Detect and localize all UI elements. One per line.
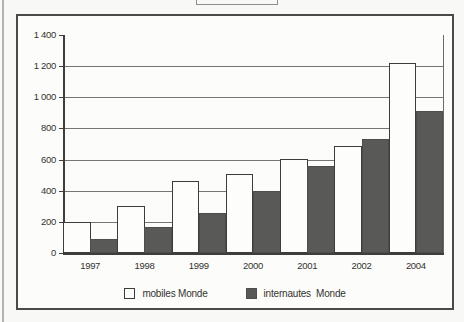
cropped-title-box bbox=[196, 0, 278, 5]
legend-label-internautes: internautes Monde bbox=[264, 288, 346, 299]
bar-internautes-2001 bbox=[307, 166, 335, 253]
x-axis-label-1999: 1999 bbox=[172, 260, 226, 271]
y-axis-label-200: 200 bbox=[20, 217, 56, 227]
y-axis-tick-1400 bbox=[59, 35, 63, 36]
x-axis-label-1998: 1998 bbox=[117, 260, 171, 271]
x-axis-label-2000: 2000 bbox=[226, 260, 280, 271]
legend-swatch-mobiles bbox=[124, 288, 135, 299]
bar-internautes-1999 bbox=[199, 213, 227, 253]
x-axis-line bbox=[63, 253, 444, 255]
y-axis-label-400: 400 bbox=[20, 186, 56, 196]
y-axis-label-600: 600 bbox=[20, 155, 56, 165]
y-axis-tick-1200 bbox=[59, 66, 63, 67]
y-axis-tick-1000 bbox=[59, 97, 63, 98]
y-axis-label-0: 0 bbox=[20, 248, 56, 258]
bar-internautes-1997 bbox=[90, 239, 118, 253]
bar-mobiles-1998 bbox=[117, 206, 145, 253]
bar-internautes-1998 bbox=[144, 227, 172, 253]
y-axis-tick-0 bbox=[59, 253, 63, 254]
bar-mobiles-1997 bbox=[63, 222, 91, 253]
bar-mobiles-2000 bbox=[226, 174, 254, 253]
x-axis-label-2004: 2004 bbox=[389, 260, 443, 271]
bar-internautes-2004 bbox=[416, 111, 444, 253]
bar-internautes-2000 bbox=[253, 191, 281, 253]
scanned-page: 02004006008001 0001 2001 400199719981999… bbox=[0, 0, 464, 322]
legend-item-mobiles: mobiles Monde bbox=[124, 288, 207, 299]
y-axis-tick-400 bbox=[59, 191, 63, 192]
plot-area: 02004006008001 0001 2001 400199719981999… bbox=[18, 16, 452, 308]
x-axis-label-2001: 2001 bbox=[280, 260, 334, 271]
x-axis-label-1997: 1997 bbox=[63, 260, 117, 271]
bar-mobiles-1999 bbox=[172, 181, 200, 253]
gridline-1000 bbox=[63, 97, 443, 98]
y-axis-tick-600 bbox=[59, 160, 63, 161]
legend-label-mobiles: mobiles Monde bbox=[142, 288, 207, 299]
y-axis-label-1200: 1 200 bbox=[20, 61, 56, 71]
y-axis-tick-800 bbox=[59, 128, 63, 129]
page-edge-line bbox=[2, 0, 4, 322]
y-axis-line bbox=[63, 35, 65, 253]
legend-item-internautes: internautes Monde bbox=[246, 288, 346, 299]
y-axis-label-1000: 1 000 bbox=[20, 92, 56, 102]
y-axis-label-1400: 1 400 bbox=[20, 30, 56, 40]
gridline-1200 bbox=[63, 66, 443, 67]
x-axis-label-2002: 2002 bbox=[335, 260, 389, 271]
bar-mobiles-2004 bbox=[389, 63, 417, 253]
bar-mobiles-2002 bbox=[334, 146, 362, 253]
y-axis-label-800: 800 bbox=[20, 123, 56, 133]
bar-mobiles-2001 bbox=[280, 159, 308, 253]
chart-legend: mobiles Monde internautes Monde bbox=[18, 288, 452, 299]
bar-internautes-2002 bbox=[362, 139, 390, 253]
chart-frame: 02004006008001 0001 2001 400199719981999… bbox=[16, 14, 454, 310]
legend-swatch-internautes bbox=[246, 288, 257, 299]
gridline-800 bbox=[63, 128, 443, 129]
